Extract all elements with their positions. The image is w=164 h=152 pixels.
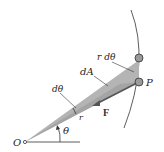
label-dtheta: dθ — [52, 84, 64, 94]
label-origin: O — [13, 137, 21, 148]
label-theta: θ — [63, 125, 69, 136]
label-P: P — [145, 77, 153, 88]
label-F: F — [103, 107, 109, 118]
particle-P — [135, 78, 143, 86]
label-dA: dA — [80, 66, 94, 77]
dtheta-leader — [60, 93, 76, 108]
particle-initial-position — [135, 54, 143, 62]
theta-arrowhead — [56, 125, 60, 130]
origin-point — [23, 140, 26, 143]
dA-leader — [94, 76, 108, 86]
label-r-dtheta: r dθ — [97, 52, 116, 62]
label-r: r — [79, 113, 84, 122]
kepler-area-diagram: O P θ dθ r dθ dA r F — [0, 0, 164, 152]
